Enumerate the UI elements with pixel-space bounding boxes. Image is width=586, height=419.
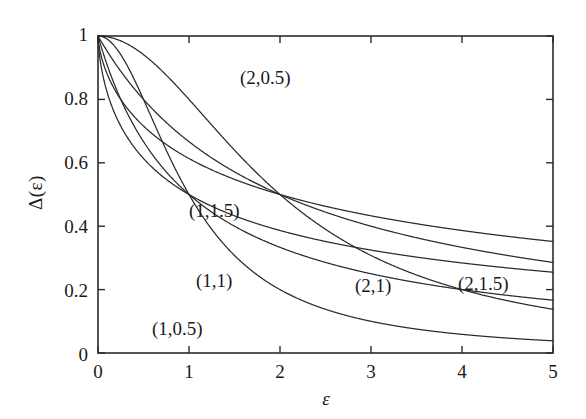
curve-115 [98, 36, 553, 272]
curve-label-2-1: (2,1) [355, 276, 391, 295]
x-tick-label-4: 4 [457, 362, 467, 381]
curve-215 [98, 36, 553, 241]
y-axis-title: Δ(ε) [26, 175, 45, 210]
chart-figure: 0 0.2 0.4 0.6 0.8 1 0 1 2 3 4 5 Δ(ε) ε (… [0, 0, 586, 419]
x-tick-label-3: 3 [366, 362, 376, 381]
curve-label-1-0p5: (1,0.5) [152, 319, 203, 338]
y-tick-label-2: 0.4 [40, 217, 88, 236]
data-curves [98, 36, 553, 341]
curve-label-1-1p5: (1,1.5) [189, 201, 240, 220]
y-tick-label-0: 0 [56, 345, 88, 364]
x-axis-title: ε [322, 389, 330, 408]
tick-marks [98, 36, 553, 353]
curve-label-2-0p5: (2,0.5) [240, 68, 291, 87]
y-tick-label-1: 0.2 [40, 281, 88, 300]
curve-label-1-1: (1,1) [196, 271, 232, 290]
y-tick-label-3: 0.6 [40, 153, 88, 172]
x-tick-label-0: 0 [93, 362, 103, 381]
y-tick-label-5: 1 [56, 25, 88, 44]
y-tick-label-4: 0.8 [40, 89, 88, 108]
x-tick-label-1: 1 [184, 362, 194, 381]
x-tick-label-5: 5 [548, 362, 558, 381]
x-tick-label-2: 2 [275, 362, 285, 381]
curve-label-2-1p5: (2,1.5) [458, 274, 509, 293]
axis-frame [98, 36, 553, 353]
